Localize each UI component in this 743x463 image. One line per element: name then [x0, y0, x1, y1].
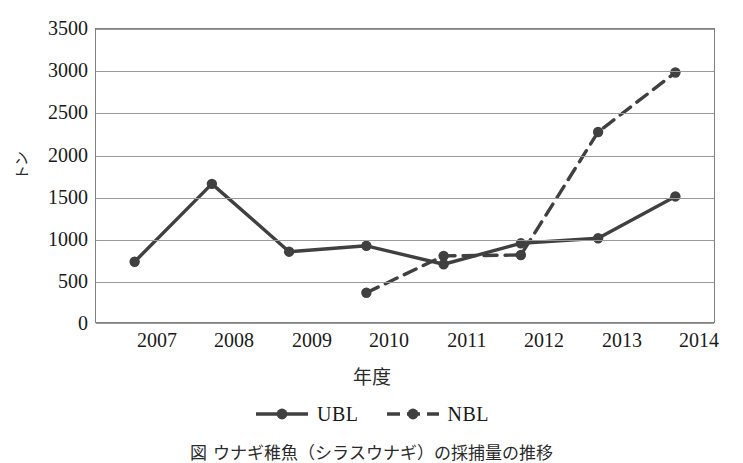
y-tick-label: 0	[8, 313, 88, 333]
data-point-ubl	[593, 233, 603, 243]
data-point-ubl	[670, 191, 680, 201]
legend-item-nbl[interactable]: NBL	[385, 404, 490, 424]
plot-area	[95, 28, 715, 323]
x-axis-tick-labels: 2007 2008 2009 2010 2011 2012 2013 2014	[95, 328, 715, 358]
legend-swatch-solid-line-icon	[254, 406, 310, 422]
series-plot	[96, 29, 714, 322]
chart-legend: UBL NBL	[0, 404, 743, 424]
y-tick-label: 2000	[8, 145, 88, 165]
gridline	[96, 29, 714, 30]
legend-swatch-dashed-line-icon	[385, 406, 441, 422]
gridline	[96, 240, 714, 241]
y-tick-label: 3500	[8, 18, 88, 38]
data-point-ubl	[361, 241, 371, 251]
gridline	[96, 71, 714, 72]
data-point-ubl	[129, 257, 139, 267]
y-tick-label: 1000	[8, 229, 88, 249]
data-point-nbl	[670, 67, 680, 77]
data-point-ubl	[207, 179, 217, 189]
data-point-nbl	[593, 127, 603, 137]
data-point-nbl	[516, 250, 526, 260]
x-tick-label: 2008	[189, 328, 279, 352]
gridline	[96, 113, 714, 114]
gridline	[96, 323, 714, 324]
data-point-nbl	[438, 251, 448, 261]
y-tick-label: 2500	[8, 102, 88, 122]
figure-caption: 図 ウナギ稚魚（シラスウナギ）の採捕量の推移	[0, 443, 743, 463]
y-axis-tick-labels: 3500 3000 2500 2000 1500 1000 500 0	[0, 28, 88, 323]
gridline	[96, 198, 714, 199]
x-tick-label: 2014	[654, 328, 743, 352]
legend-item-ubl[interactable]: UBL	[254, 404, 359, 424]
series-line-ubl	[135, 184, 676, 264]
legend-label-ubl: UBL	[317, 404, 359, 424]
y-tick-label: 3000	[8, 60, 88, 80]
y-tick-label: 500	[8, 271, 88, 291]
x-tick-label: 2012	[499, 328, 589, 352]
data-point-nbl	[361, 288, 371, 298]
gridline	[96, 156, 714, 157]
data-point-ubl	[284, 246, 294, 256]
x-axis-title: 年度	[0, 366, 743, 388]
x-tick-label: 2010	[344, 328, 434, 352]
y-tick-label: 1500	[8, 187, 88, 207]
legend-label-nbl: NBL	[448, 404, 490, 424]
gridline	[96, 282, 714, 283]
